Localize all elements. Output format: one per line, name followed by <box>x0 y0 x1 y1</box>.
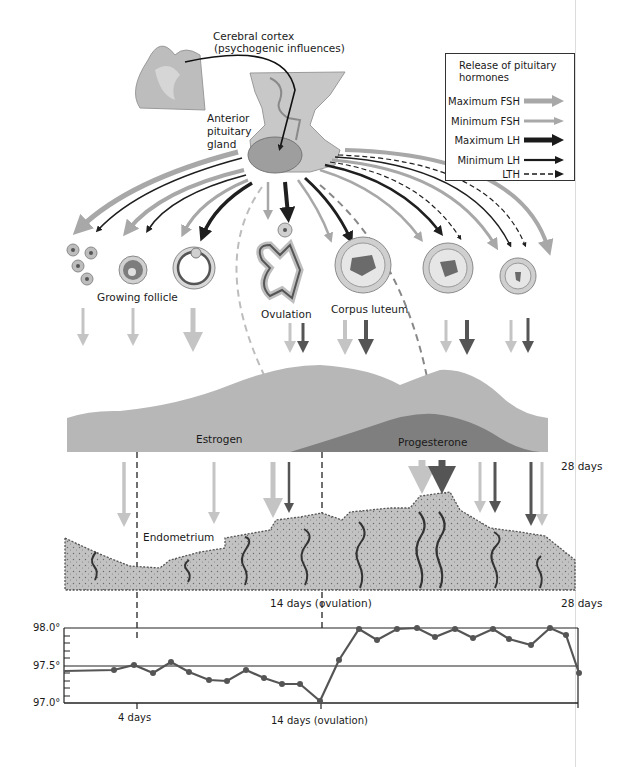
legend-label: Minimum FSH <box>451 116 520 127</box>
hormone-to-endometrium-arrows <box>124 460 542 520</box>
thick-black-arrow-icon <box>524 134 566 146</box>
thick-gray-arrow-icon <box>524 95 566 107</box>
y-tick-97-5: 97.5° <box>33 660 60 671</box>
hormone-level-chart <box>67 365 548 452</box>
y-tick-97: 97.0° <box>33 697 60 708</box>
legend: Release of pituitary hormones Maximum FS… <box>445 53 575 181</box>
label-cerebral-cortex: Cerebral cortex <box>213 30 294 42</box>
legend-title: Release of pituitary hormones <box>459 60 569 84</box>
x-label-14-days: 14 days (ovulation) <box>271 715 368 726</box>
label-anterior: Anterior <box>207 112 250 124</box>
legend-item-min-fsh: Minimum FSH <box>451 115 566 127</box>
label-psychogenic: (psychogenic influences) <box>214 42 345 54</box>
legend-item-lth: LTH <box>502 168 566 180</box>
legend-item-max-lh: Maximum LH <box>454 134 566 146</box>
label-gland: gland <box>207 138 236 150</box>
legend-label: Maximum LH <box>454 135 520 146</box>
thin-black-arrow-icon <box>524 154 566 166</box>
legend-label: Minimum LH <box>457 155 520 166</box>
legend-label: LTH <box>502 169 520 180</box>
cerebral-cortex-illustration <box>136 46 206 110</box>
legend-item-max-fsh: Maximum FSH <box>448 95 566 107</box>
label-estrogen: Estrogen <box>196 433 243 445</box>
label-endometrium: Endometrium <box>143 531 214 543</box>
label-growing-follicle: Growing follicle <box>97 291 178 303</box>
y-tick-98: 98.0° <box>33 622 60 633</box>
dashed-black-arrow-icon <box>524 168 566 180</box>
temperature-chart <box>64 625 582 709</box>
label-corpus-luteum: Corpus luteum <box>331 303 408 315</box>
legend-item-min-lh: Minimum LH <box>457 154 566 166</box>
label-28-days-endometrium: 28 days <box>561 597 602 609</box>
label-pituitary: pituitary <box>207 125 251 137</box>
thin-gray-arrow-icon <box>524 115 566 127</box>
label-ovulation: Ovulation <box>261 308 312 320</box>
legend-label: Maximum FSH <box>448 96 520 107</box>
menstrual-cycle-diagram: Cerebral cortex (psychogenic influences)… <box>0 0 634 767</box>
label-28-days-hormone: 28 days <box>561 460 602 472</box>
label-14-days-endometrium: 14 days (ovulation) <box>270 597 372 609</box>
ovary-follicles <box>67 223 536 298</box>
x-label-4-days: 4 days <box>118 712 151 723</box>
endometrium-illustration <box>65 492 575 590</box>
pituitary-gland-illustration <box>248 72 345 173</box>
label-progesterone: Progesterone <box>398 436 467 448</box>
